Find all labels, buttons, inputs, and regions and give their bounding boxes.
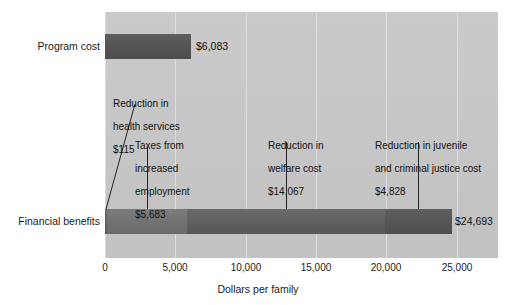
x-tick-label-10000: 10,000 <box>231 262 262 273</box>
annotation-taxes-line-1: Taxes from <box>135 140 189 152</box>
bar-segment-welfare-cost <box>187 209 385 234</box>
annotation-taxes-line-2: increased <box>135 163 189 175</box>
x-tick-label-15000: 15,000 <box>301 262 332 273</box>
value-label-financial-benefits: $24,693 <box>455 215 493 227</box>
annotation-welfare-cost: Reduction in welfare cost $14,067 <box>268 128 324 209</box>
x-tick-label-25000: 25,000 <box>442 262 473 273</box>
annotation-taxes-line-4: $5,683 <box>135 209 189 221</box>
value-label-program-cost: $6,083 <box>196 40 228 52</box>
category-label-program-cost: Program cost <box>0 40 100 52</box>
x-tick-label-0: 0 <box>102 262 108 273</box>
annotation-welfare-line-1: Reduction in <box>268 140 324 152</box>
x-tick-label-5000: 5,000 <box>162 262 187 273</box>
annotation-justice-line-3: $4,828 <box>375 186 481 198</box>
x-axis-title: Dollars per family <box>217 283 298 295</box>
category-label-financial-benefits: Financial benefits <box>0 215 100 227</box>
annotation-justice-line-2: and criminal justice cost <box>375 163 481 175</box>
bar-segment-program-cost <box>105 34 191 59</box>
annotation-health-line-1: Reduction in <box>113 98 180 110</box>
annotation-justice-cost: Reduction in juvenile and criminal justi… <box>375 128 481 209</box>
bar-program-cost[interactable] <box>105 34 191 59</box>
annotation-welfare-line-2: welfare cost <box>268 163 324 175</box>
annotation-welfare-line-3: $14,067 <box>268 186 324 198</box>
chart-root: Program cost Financial benefits $6,083 $… <box>0 0 516 305</box>
bar-segment-justice-cost <box>385 209 452 234</box>
annotation-justice-line-1: Reduction in juvenile <box>375 140 481 152</box>
x-tick-label-20000: 20,000 <box>371 262 402 273</box>
annotation-taxes-line-3: employment <box>135 186 189 198</box>
annotation-taxes-employment: Taxes from increased employment $5,683 <box>135 128 189 232</box>
